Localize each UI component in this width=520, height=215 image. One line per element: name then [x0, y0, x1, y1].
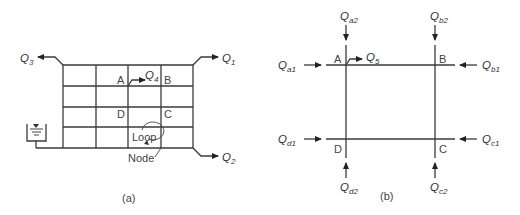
node-d-label: D — [117, 108, 125, 120]
inflow-qc2-label: Qc2 — [430, 181, 448, 196]
outflow-q5-arrow — [346, 59, 362, 65]
panel-b-caption: (b) — [380, 190, 393, 202]
node-d-label: D — [334, 143, 342, 155]
panel-b: A B C D Qa2 Qb2 Qa1 Qb1 Qd1 Qc1 Qd2 Qc2 … — [278, 10, 500, 202]
outflow-q3-label: Q3 — [20, 52, 34, 67]
node-pointer-line — [155, 148, 161, 157]
node-label: Node — [128, 152, 154, 164]
pipe-network-diagram: Q3 Q1 Q2 Q4 A B C D Loop Node (a) — [0, 0, 520, 215]
outflow-q1-label: Q1 — [222, 52, 235, 67]
loop-label: Loop — [132, 131, 156, 143]
inflow-qc1-label: Qc1 — [482, 133, 499, 148]
node-a-label: A — [117, 74, 125, 86]
node-c-label: C — [164, 108, 172, 120]
outflow-q4-label: Q4 — [145, 69, 159, 84]
node-b-label: B — [439, 53, 446, 65]
inflow-qa2-label: Qa2 — [340, 10, 358, 25]
inflow-qd1-label: Qd1 — [278, 133, 296, 148]
node-a-label: A — [334, 53, 342, 65]
outflow-q3-arrow — [38, 57, 63, 65]
outflow-q5-label: Q5 — [366, 51, 380, 66]
outflow-q2-arrow — [193, 148, 218, 156]
outflow-q4-arrow — [128, 80, 145, 86]
panel-a-caption: (a) — [122, 192, 135, 204]
reservoir-tank-icon — [27, 124, 46, 148]
outflow-q2-label: Q2 — [222, 151, 236, 166]
inflow-qb1-label: Qb1 — [482, 59, 500, 74]
inflow-qa1-label: Qa1 — [278, 59, 296, 74]
node-b-label: B — [164, 74, 171, 86]
inflow-qd2-label: Qd2 — [340, 181, 358, 196]
panel-a: Q3 Q1 Q2 Q4 A B C D Loop Node (a) — [20, 52, 236, 204]
outflow-q1-arrow — [193, 57, 218, 65]
node-c-label: C — [439, 143, 447, 155]
inflow-qb2-label: Qb2 — [430, 10, 448, 25]
